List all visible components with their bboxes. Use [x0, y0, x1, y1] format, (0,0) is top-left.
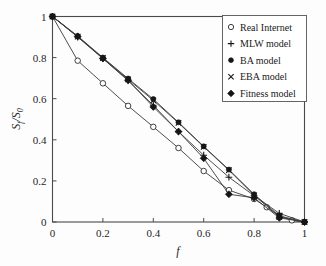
legend-marker-open-circle: [228, 24, 233, 29]
legend-label: Real Internet: [240, 22, 292, 33]
line-chart-canvas: 00.20.40.60.81 00.20.40.60.81 f Sf/S0 Re…: [0, 0, 326, 266]
chart-legend[interactable]: Real InternetMLW modelBA modelEBA modelF…: [223, 16, 307, 102]
y-tick-label: 0.8: [33, 52, 47, 64]
x-tick-label: 0.2: [96, 227, 110, 239]
y-tick-label: 0: [41, 216, 47, 228]
data-point-open-circle: [100, 81, 106, 87]
x-tick-label: 0: [50, 227, 56, 239]
y-tick-label: 0.6: [33, 93, 47, 105]
data-point-open-circle: [151, 124, 157, 130]
legend-label: Fitness model: [240, 88, 296, 99]
data-point-open-circle: [176, 145, 182, 151]
x-tick-label: 0.4: [146, 227, 160, 239]
data-point-open-circle: [125, 103, 131, 109]
y-tick-label: 1: [41, 11, 47, 23]
y-tick-label: 0.4: [33, 134, 47, 146]
x-tick-label: 1: [302, 227, 308, 239]
data-point-open-circle: [75, 58, 81, 64]
y-tick-label: 0.2: [33, 175, 47, 187]
x-tick-label: 0.6: [197, 227, 211, 239]
legend-label: EBA model: [240, 71, 287, 82]
legend-marker-filled-circle: [229, 58, 234, 63]
x-tick-label: 0.8: [247, 227, 261, 239]
y-axis-title-sep: /S: [9, 112, 23, 122]
legend-label: BA model: [240, 55, 281, 66]
data-point-open-circle: [201, 168, 207, 174]
y-axis-title-sub0: 0: [16, 108, 25, 112]
legend-label: MLW model: [240, 38, 291, 49]
chart-figure: 00.20.40.60.81 00.20.40.60.81 f Sf/S0 Re…: [0, 0, 326, 266]
